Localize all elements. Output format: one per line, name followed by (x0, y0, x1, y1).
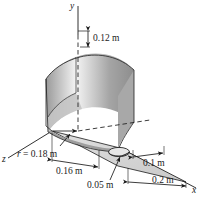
curved-shell (46, 54, 134, 152)
dimension-label-base-offset: 0.16 m (56, 167, 82, 177)
dimension-label-plate-length: 0.2 m (152, 176, 174, 186)
diagram-svg (0, 0, 203, 201)
dimension-label-hole-offset: 0.1 m (143, 159, 165, 169)
plate-hole (109, 147, 130, 156)
hole-offset-arrow (133, 153, 163, 157)
dimension-label-height: 0.12 m (93, 34, 119, 44)
x-axis-label: x (192, 186, 196, 196)
y-axis-label: y (70, 2, 74, 12)
dimension-height (78, 31, 90, 47)
dimension-label-hole-diameter: 0.05 m (87, 181, 113, 191)
z-axis-label: z (2, 155, 6, 165)
radius-value: = 0.18 m (21, 149, 58, 159)
dimension-label-radius: r = 0.18 m (17, 150, 57, 160)
centre-dashed-x (78, 120, 150, 131)
figure-canvas: y z x 0.12 m r = 0.18 m 0.16 m 0.05 m 0.… (0, 0, 203, 201)
